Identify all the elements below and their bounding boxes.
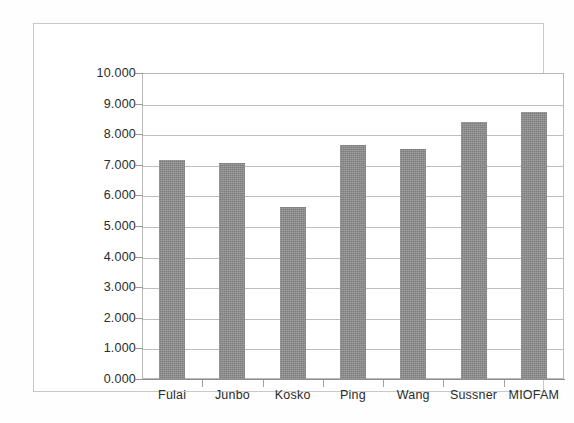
x-axis-tick-label: Fulai (158, 388, 186, 402)
y-axis-tick-label: 8.000 (70, 127, 136, 141)
x-axis-line (142, 379, 565, 380)
bar (340, 145, 366, 379)
y-axis-tick-label: 6.000 (70, 188, 136, 202)
y-axis-tick-mark (135, 348, 143, 349)
x-axis-tick-label: Ping (340, 388, 366, 402)
y-axis-tick-mark (135, 226, 143, 227)
x-axis-tick-mark (263, 380, 264, 387)
bar (219, 163, 245, 379)
x-axis-tick-mark (443, 380, 444, 387)
x-axis-tick-mark (202, 380, 203, 387)
bar-series (142, 73, 564, 379)
figure-frame: 10.0009.0008.0007.0006.0005.0004.0003.00… (33, 23, 544, 392)
y-axis-tick-label: 10.000 (70, 66, 136, 80)
x-axis-tick-mark (504, 380, 505, 387)
y-axis-tick-mark (135, 287, 143, 288)
bar (280, 207, 306, 379)
bar (159, 160, 185, 379)
bar (461, 122, 487, 379)
x-axis-tick-label: MIOFAM (509, 388, 560, 402)
y-axis-tick-mark (135, 104, 143, 105)
y-axis-tick-label: 4.000 (70, 250, 136, 264)
y-axis-tick-label: 3.000 (70, 280, 136, 294)
y-axis-tick-mark (135, 165, 143, 166)
x-axis-tick-labels: FulaiJunboKoskoPingWangSussnerMIOFAM (142, 388, 564, 410)
y-axis-tick-labels: 10.0009.0008.0007.0006.0005.0004.0003.00… (68, 73, 136, 379)
bar (521, 112, 547, 379)
y-axis-tick-mark (135, 379, 143, 380)
y-axis-tick-mark (135, 318, 143, 319)
y-axis-tick-label: 7.000 (70, 158, 136, 172)
x-axis-tick-label: Wang (397, 388, 430, 402)
y-axis-tick-label: 0.000 (70, 372, 136, 386)
x-axis-tick-label: Sussner (450, 388, 497, 402)
y-axis-tick-mark (135, 134, 143, 135)
y-axis-tick-label: 5.000 (70, 219, 136, 233)
y-axis-tick-label: 1.000 (70, 341, 136, 355)
x-axis-tick-mark (323, 380, 324, 387)
bar (400, 149, 426, 379)
y-axis-tick-label: 2.000 (70, 311, 136, 325)
y-axis-tick-mark (135, 195, 143, 196)
y-axis-tick-mark (135, 257, 143, 258)
y-axis-tick-label: 9.000 (70, 97, 136, 111)
x-axis-tick-label: Junbo (215, 388, 250, 402)
x-axis-tick-label: Kosko (275, 388, 311, 402)
y-axis-tick-mark (135, 73, 143, 74)
x-axis-tick-mark (383, 380, 384, 387)
